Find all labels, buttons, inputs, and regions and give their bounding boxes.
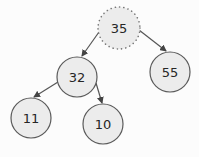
- tree-edges: [34, 30, 166, 103]
- edge-arrow-32-to-11: [34, 82, 58, 97]
- tree-node-10: 10: [83, 104, 123, 144]
- tree-diagram-canvas: 3532551110: [0, 0, 199, 157]
- edge-arrow-35-to-55: [139, 30, 166, 51]
- node-label: 32: [69, 70, 86, 85]
- tree-node-32: 32: [57, 57, 97, 97]
- binary-tree-diagram: 3532551110: [0, 0, 199, 157]
- node-label: 11: [23, 111, 40, 126]
- edge-arrow-35-to-32: [82, 32, 99, 56]
- node-label: 55: [162, 65, 179, 80]
- edge-arrow-32-to-10: [96, 83, 102, 103]
- tree-nodes: 3532551110: [11, 7, 190, 144]
- tree-node-55: 55: [150, 52, 190, 92]
- node-label: 10: [95, 117, 112, 132]
- tree-node-11: 11: [11, 98, 51, 138]
- tree-node-35: 35: [98, 7, 140, 49]
- node-label: 35: [111, 21, 128, 36]
